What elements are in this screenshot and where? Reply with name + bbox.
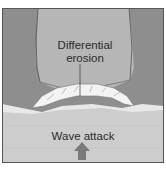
label-line-2: erosion: [40, 52, 130, 65]
wave-attack-label: Wave attack: [40, 130, 126, 143]
label-line-1: Differential: [40, 39, 130, 52]
differential-erosion-label: Differential erosion: [40, 39, 130, 64]
